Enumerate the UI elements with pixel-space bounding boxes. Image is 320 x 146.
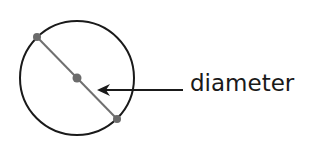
diameter-label: diameter	[190, 72, 294, 95]
arrow-icon	[97, 84, 183, 96]
endpoint-top	[33, 33, 41, 41]
center-point	[73, 74, 82, 83]
endpoint-bottom	[113, 115, 121, 123]
